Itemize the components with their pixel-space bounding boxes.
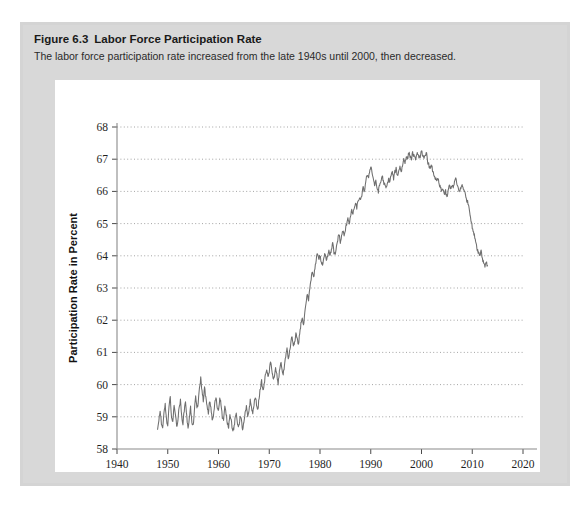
y-tick-label-66: 66: [97, 185, 109, 197]
x-tick-label-1970: 1970: [258, 458, 281, 470]
y-tick-label-60: 60: [97, 379, 109, 391]
y-tick-label-62: 62: [97, 314, 109, 326]
data-series-line: [158, 151, 488, 431]
y-tick-label-65: 65: [97, 218, 109, 230]
x-tick-label-2010: 2010: [461, 458, 484, 470]
x-tick-label-1960: 1960: [207, 458, 230, 470]
x-tick-label-1990: 1990: [359, 458, 382, 470]
x-tick-group: 194019501960197019801990200020102020: [106, 449, 535, 470]
figure-caption: Figure 6.3Labor Force Participation Rate…: [34, 32, 554, 64]
figure-title-text: Labor Force Participation Rate: [94, 33, 261, 45]
y-tick-label-63: 63: [97, 282, 109, 294]
figure-subtitle: The labor force participation rate incre…: [34, 49, 554, 64]
y-tick-label-64: 64: [97, 250, 109, 262]
figure-panel: Figure 6.3Labor Force Participation Rate…: [20, 22, 570, 486]
y-tick-label-61: 61: [97, 346, 109, 358]
gridlines-group: [117, 127, 523, 417]
figure-title: Figure 6.3Labor Force Participation Rate: [34, 32, 554, 47]
y-axis-title: Participation Rate in Percent: [67, 213, 79, 363]
y-tick-label-59: 59: [97, 411, 109, 423]
x-tick-label-2000: 2000: [410, 458, 433, 470]
y-tick-label-68: 68: [97, 121, 109, 133]
chart-svg: 5859606162636465666768 19401950196019701…: [55, 80, 540, 472]
x-tick-label-1980: 1980: [309, 458, 332, 470]
y-tick-group: 5859606162636465666768: [97, 121, 118, 455]
y-tick-label-58: 58: [97, 443, 109, 455]
x-tick-label-1950: 1950: [156, 458, 179, 470]
x-tick-label-1940: 1940: [106, 458, 129, 470]
plot-card: 5859606162636465666768 19401950196019701…: [55, 80, 540, 472]
figure-number: Figure 6.3: [34, 33, 88, 45]
y-tick-label-67: 67: [97, 153, 109, 165]
x-tick-label-2020: 2020: [512, 458, 535, 470]
